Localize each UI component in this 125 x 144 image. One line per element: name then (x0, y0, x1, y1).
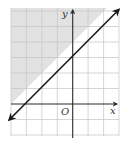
y-axis-label: y (61, 8, 68, 19)
inequality-graph: y x O (0, 0, 125, 144)
x-axis-label: x (110, 105, 116, 116)
origin-label: O (61, 106, 69, 117)
